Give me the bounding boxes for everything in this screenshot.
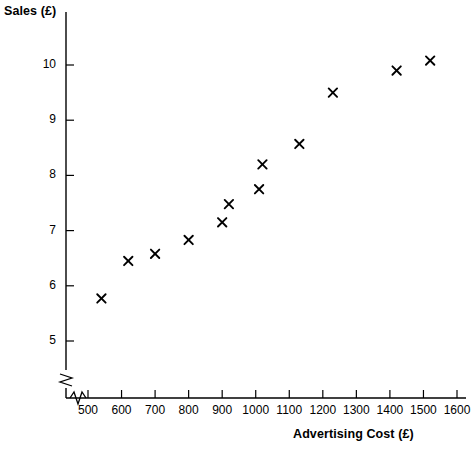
axes (60, 12, 466, 404)
y-tick-label: 8 (28, 167, 56, 181)
plot-area (0, 0, 472, 455)
axis-ticks (66, 65, 457, 398)
y-axis-break-icon (60, 374, 72, 386)
data-point-marker (255, 185, 263, 193)
data-point-marker (218, 218, 226, 226)
data-point-marker (392, 66, 400, 74)
data-point-marker (295, 140, 303, 148)
data-point-marker (97, 294, 105, 302)
y-tick-label: 9 (28, 112, 56, 126)
data-point-marker (426, 56, 434, 64)
y-tick-label: 6 (28, 278, 56, 292)
data-point-marker (225, 200, 233, 208)
data-point-marker (124, 257, 132, 265)
data-point-marker (151, 250, 159, 258)
x-tick-label: 1600 (437, 403, 472, 417)
y-tick-label: 7 (28, 223, 56, 237)
y-tick-label: 5 (28, 333, 56, 347)
data-point-marker (329, 88, 337, 96)
data-point-marker (184, 236, 192, 244)
scatter-chart: Sales (£) Advertising Cost (£) 5678910 5… (0, 0, 472, 455)
data-point-marker (258, 160, 266, 168)
data-points (97, 56, 434, 302)
y-tick-label: 10 (28, 57, 56, 71)
